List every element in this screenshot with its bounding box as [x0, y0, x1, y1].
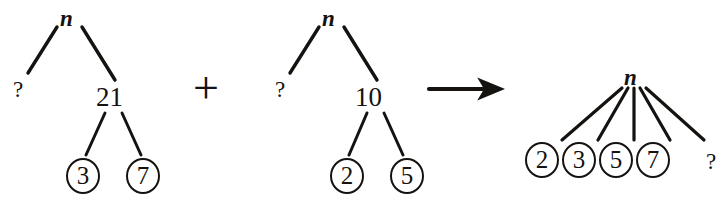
left-tree-leaf-7-label: 7: [137, 163, 150, 188]
middle-tree-composite-label: 10: [355, 84, 382, 111]
middle-tree-leaf-2-label: 2: [341, 163, 354, 188]
left-tree-leaf-7: 7: [126, 158, 160, 194]
right-tree-leaf-2-label: 2: [536, 147, 549, 172]
left-tree-leaf-3-label: 3: [77, 163, 90, 188]
left-tree-composite-label: 21: [96, 84, 123, 111]
right-tree-root-label: n: [624, 66, 637, 89]
middle-tree-leaf-5: 5: [390, 158, 424, 194]
edge-left-21-to-7: [122, 113, 141, 155]
right-tree-unknown-label: ?: [706, 150, 716, 173]
right-tree-leaf-5-label: 5: [610, 147, 623, 172]
right-tree-leaf-5: 5: [599, 142, 633, 178]
middle-tree-unknown-label: ?: [275, 78, 285, 101]
edge-middle-10-to-5: [384, 113, 403, 155]
left-tree-unknown-label: ?: [13, 78, 23, 101]
edge-middle-root-to-10: [344, 27, 377, 80]
plus-operator: +: [193, 65, 219, 111]
edge-middle-root-to-unknown: [290, 27, 319, 73]
edge-left-root-to-21: [82, 27, 115, 80]
left-tree-root-label: n: [60, 7, 73, 30]
middle-tree-leaf-2: 2: [330, 158, 364, 194]
left-tree-leaf-3: 3: [66, 158, 100, 194]
right-tree-leaf-2: 2: [525, 142, 559, 178]
middle-tree-leaf-5-label: 5: [401, 163, 414, 188]
edge-left-21-to-3: [86, 113, 105, 155]
right-tree-leaf-3: 3: [562, 142, 596, 178]
right-tree-leaf-3-label: 3: [573, 147, 586, 172]
edge-middle-10-to-2: [349, 113, 367, 155]
factor-tree-figure: n ? 21 3 7 + n ? 10 2 5 n 2 3 5 7 ?: [0, 0, 727, 202]
right-tree-leaf-7: 7: [636, 142, 670, 178]
right-tree-leaf-7-label: 7: [647, 147, 660, 172]
edge-left-root-to-unknown: [28, 27, 57, 73]
middle-tree-root-label: n: [322, 7, 335, 30]
